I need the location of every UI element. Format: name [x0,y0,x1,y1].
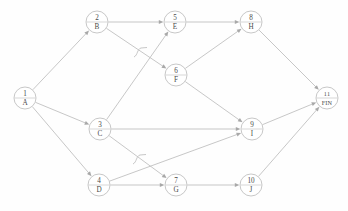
node-letter-h: H [248,23,253,31]
node-number-f: 6 [174,67,178,75]
arrowhead-B-F [161,64,166,68]
node-number-i: 9 [250,121,254,129]
edge-A-C [36,102,90,124]
edge-F-I [185,82,242,123]
node-letter-j: J [250,186,253,194]
node-i[interactable]: 9I [241,118,263,140]
edge-C-E [107,31,169,119]
arrowhead-F-H [237,29,242,33]
node-letter-e: E [173,23,178,31]
node-letter-c: C [98,130,103,138]
arrowhead-C-E [164,31,168,36]
node-number-b: 2 [95,14,99,22]
edge-line-F-I [185,82,239,121]
node-number-a: 1 [23,90,27,98]
edge-line-C-G [109,136,164,176]
edge-C-I [111,127,240,131]
node-d[interactable]: 4D [88,174,110,196]
edge-line-C-E [107,34,167,119]
node-number-g: 7 [174,177,178,185]
edge-B-F [106,28,166,68]
node-e[interactable]: 5E [164,11,186,33]
node-number-d: 4 [97,177,101,185]
arrowhead-G-J [235,183,240,187]
arrowhead-E-H [235,20,240,24]
node-letter-b: B [95,23,100,31]
node-f[interactable]: 6F [165,64,187,86]
node-fin[interactable]: 11FIN [316,87,338,109]
edge-E-H [186,20,239,24]
arrowhead-B-E [159,20,164,24]
node-letter-g: G [173,186,178,194]
crossing-hop-hop-lower [133,155,146,165]
edge-A-B [33,30,89,89]
node-g[interactable]: 7G [165,174,187,196]
node-layer: 1A2B3C4D5E6F7G8H9I10J11FIN [14,11,338,196]
edge-line-H-FIN [259,30,316,87]
edge-line-F-H [185,31,238,69]
edge-B-E [108,20,163,24]
node-number-j: 10 [247,177,255,185]
node-a[interactable]: 1A [14,87,36,109]
edge-line-A-D [32,107,89,174]
edge-F-H [185,29,241,69]
node-b[interactable]: 2B [86,11,108,33]
edge-G-J [187,183,239,187]
node-h[interactable]: 8H [240,11,262,33]
node-number-e: 5 [173,14,177,22]
edge-A-D [32,107,91,176]
arrowhead-D-I [236,133,241,137]
edge-H-FIN [259,30,319,90]
arrowhead-C-G [162,174,167,178]
arrowhead-F-I [238,118,243,122]
node-letter-a: A [22,99,28,107]
edge-line-A-B [33,33,87,90]
node-letter-fin: FIN [322,99,333,106]
node-number-fin: 11 [324,90,330,97]
arrowhead-C-I [236,127,241,131]
node-letter-d: D [96,186,101,194]
edge-line-J-FIN [258,109,317,176]
node-j[interactable]: 10J [240,174,262,196]
edge-layer [32,20,319,187]
edge-line-A-C [36,102,86,123]
crossing-hop-hop-upper [134,48,147,58]
edge-line-I-FIN [263,104,313,125]
network-diagram: 1A2B3C4D5E6F7G8H9I10J11FIN [0,0,348,211]
edge-D-G [110,183,164,187]
edge-line-B-F [106,28,163,66]
node-number-c: 3 [98,121,102,129]
arrowhead-D-G [160,183,165,187]
node-number-h: 8 [249,14,253,22]
edge-J-FIN [258,107,319,177]
node-letter-f: F [174,76,178,84]
edge-I-FIN [263,102,317,124]
node-c[interactable]: 3C [89,118,111,140]
diagram-canvas: 1A2B3C4D5E6F7G8H9I10J11FIN [0,0,348,211]
